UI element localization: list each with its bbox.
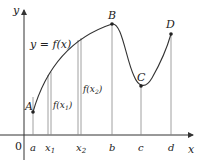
f-x2-label: f(x2)	[82, 84, 103, 95]
label-c: C	[137, 71, 146, 84]
x-axis-label: x	[188, 143, 195, 156]
function-graph: A B C D y x 0 y = f(x) a x1 x2 b c d f(x…	[0, 0, 199, 160]
label-a: A	[24, 100, 33, 113]
point-c	[139, 84, 143, 88]
origin-label: 0	[15, 140, 22, 153]
point-d	[169, 32, 173, 36]
tick-x1: x1	[45, 142, 55, 155]
curve-label: y = f(x)	[29, 38, 71, 51]
tick-x2: x2	[76, 142, 87, 155]
tick-a: a	[30, 142, 36, 153]
tick-b: b	[109, 142, 115, 153]
point-b	[110, 22, 114, 26]
f-x1-label: f(x1)	[52, 100, 73, 111]
label-d: D	[165, 18, 175, 31]
label-b: B	[107, 9, 116, 22]
tick-d: d	[168, 142, 174, 153]
y-axis-label: y	[12, 4, 20, 17]
tick-c: c	[138, 142, 144, 153]
